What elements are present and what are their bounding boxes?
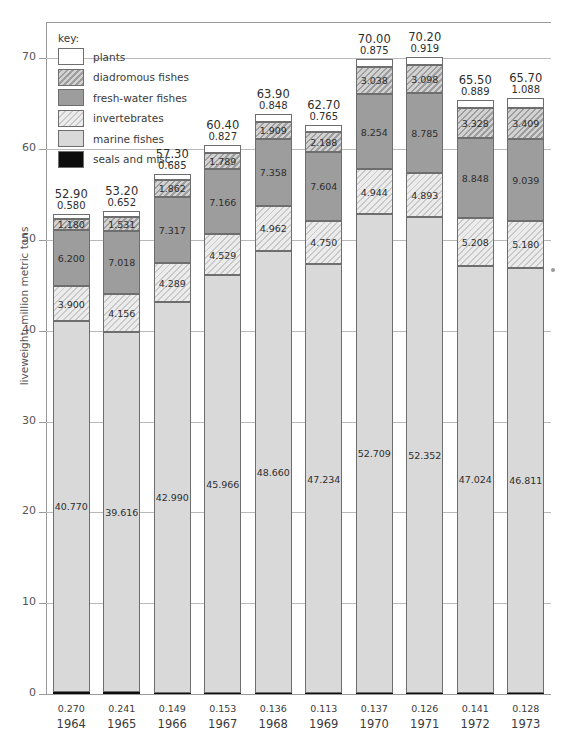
- y-tick-0: 0: [0, 694, 46, 695]
- segment-plants[interactable]: [507, 98, 544, 108]
- x-label-1965: 0.2411965: [95, 702, 148, 732]
- plants-value: 0.765: [297, 111, 350, 123]
- segment-marine[interactable]: 47.024: [457, 266, 494, 693]
- seals-value: 0.270: [45, 702, 98, 716]
- segment-freshwater[interactable]: 7.604: [305, 152, 342, 221]
- x-axis-labels: 0.27019640.24119650.14919660.15319670.13…: [46, 698, 551, 748]
- segment-freshwater[interactable]: 8.254: [356, 94, 393, 169]
- segment-invertebrates[interactable]: 4.893: [406, 173, 443, 217]
- segment-freshwater[interactable]: 7.018: [103, 231, 140, 295]
- segment-diadromous[interactable]: 1.180: [53, 219, 90, 230]
- bar-1970[interactable]: 52.7094.9448.2543.038: [356, 59, 393, 694]
- segment-freshwater[interactable]: 6.200: [53, 230, 90, 286]
- segment-plants[interactable]: [255, 114, 292, 122]
- bar-1969[interactable]: 47.2344.7507.6042.188: [305, 125, 342, 694]
- y-tick-mark: [39, 149, 46, 150]
- plants-value: 0.848: [247, 100, 300, 112]
- segment-plants[interactable]: [103, 211, 140, 217]
- x-label-1964: 0.2701964: [45, 702, 98, 732]
- legend-item-freshwater[interactable]: fresh-water fishes: [58, 88, 238, 107]
- segment-freshwater[interactable]: 9.039: [507, 139, 544, 221]
- segment-marine[interactable]: 45.966: [204, 275, 241, 692]
- segment-invertebrates[interactable]: 3.900: [53, 286, 90, 321]
- legend-swatch-invertebrates: [58, 110, 84, 127]
- segment-seals[interactable]: [53, 692, 90, 694]
- segment-plants[interactable]: [53, 214, 90, 219]
- seals-value: 0.141: [449, 702, 502, 716]
- legend-item-invertebrates[interactable]: invertebrates: [58, 109, 238, 128]
- segment-marine[interactable]: 52.709: [356, 214, 393, 693]
- segment-plants[interactable]: [305, 125, 342, 132]
- segment-plants[interactable]: [356, 59, 393, 67]
- segment-diadromous[interactable]: 3.328: [457, 108, 494, 138]
- seals-value: 0.241: [95, 702, 148, 716]
- segment-diadromous[interactable]: 1.909: [255, 122, 292, 139]
- segment-marine[interactable]: 47.234: [305, 264, 342, 693]
- bar-1972[interactable]: 47.0245.2088.8483.328: [457, 100, 494, 694]
- chart-legend: key: plantsdiadromous fishesfresh-water …: [58, 32, 238, 170]
- segment-diadromous[interactable]: 3.038: [356, 67, 393, 95]
- segment-invertebrates[interactable]: 4.529: [204, 234, 241, 275]
- segment-invertebrates[interactable]: 4.156: [103, 294, 140, 332]
- x-label-1971: 0.1261971: [398, 702, 451, 732]
- segment-plants[interactable]: [406, 57, 443, 65]
- y-tick-label: 70: [22, 50, 36, 63]
- segment-invertebrates[interactable]: 4.750: [305, 221, 342, 264]
- legend-swatch-marine: [58, 130, 84, 147]
- segment-invertebrates[interactable]: 4.962: [255, 206, 292, 251]
- segment-invertebrates[interactable]: 5.208: [457, 218, 494, 265]
- segment-marine[interactable]: 40.770: [53, 321, 90, 691]
- segment-value: 7.166: [205, 196, 240, 207]
- segment-marine[interactable]: 42.990: [154, 302, 191, 692]
- segment-freshwater[interactable]: 7.166: [204, 169, 241, 234]
- segment-freshwater[interactable]: 7.317: [154, 197, 191, 263]
- segment-marine[interactable]: 48.660: [255, 251, 292, 693]
- bar-1967[interactable]: 45.9664.5297.1661.789: [204, 145, 241, 694]
- segment-diadromous[interactable]: 3.098: [406, 65, 443, 93]
- legend-item-diadromous[interactable]: diadromous fishes: [58, 68, 238, 87]
- bar-1964[interactable]: 40.7703.9006.2001.180: [53, 214, 90, 694]
- bar-1971[interactable]: 52.3524.8938.7853.098: [406, 57, 443, 694]
- segment-plants[interactable]: [457, 100, 494, 108]
- segment-invertebrates[interactable]: 4.944: [356, 169, 393, 214]
- segment-freshwater[interactable]: 7.358: [255, 139, 292, 206]
- segment-invertebrates[interactable]: 4.289: [154, 263, 191, 302]
- year-label: 1969: [297, 716, 350, 732]
- segment-freshwater[interactable]: 8.848: [457, 138, 494, 218]
- seals-value: 0.113: [297, 702, 350, 716]
- bar-1973[interactable]: 46.8115.1809.0393.409: [507, 98, 544, 694]
- segment-marine[interactable]: 39.616: [103, 332, 140, 692]
- segment-diadromous[interactable]: 1.531: [103, 217, 140, 231]
- segment-value: 5.208: [458, 237, 493, 248]
- segment-value: 52.352: [407, 450, 442, 461]
- segment-diadromous[interactable]: 1.862: [154, 180, 191, 197]
- x-label-1970: 0.1371970: [348, 702, 401, 732]
- y-tick-mark: [39, 512, 46, 513]
- segment-marine[interactable]: 52.352: [406, 217, 443, 692]
- segment-marine[interactable]: 46.811: [507, 268, 544, 693]
- seals-value: 0.136: [247, 702, 300, 716]
- x-label-1967: 0.1531967: [196, 702, 249, 732]
- bar-1965[interactable]: 39.6164.1567.0181.531: [103, 211, 140, 694]
- legend-item-marine[interactable]: marine fishes: [58, 129, 238, 148]
- seals-value: 0.149: [146, 702, 199, 716]
- legend-item-plants[interactable]: plants: [58, 47, 238, 66]
- year-label: 1967: [196, 716, 249, 732]
- segment-value: 5.180: [508, 239, 543, 250]
- segment-freshwater[interactable]: 8.785: [406, 93, 443, 173]
- bar-total: 70.00: [348, 33, 401, 45]
- legend-swatch-diadromous: [58, 69, 84, 86]
- segment-value: 4.289: [155, 277, 190, 288]
- segment-diadromous[interactable]: 2.188: [305, 132, 342, 152]
- bar-1968[interactable]: 48.6604.9627.3581.909: [255, 114, 292, 694]
- segment-invertebrates[interactable]: 5.180: [507, 221, 544, 268]
- segment-plants[interactable]: [154, 174, 191, 180]
- y-tick-label: 10: [22, 595, 36, 608]
- segment-diadromous[interactable]: 3.409: [507, 108, 544, 139]
- segment-seals[interactable]: [103, 692, 140, 694]
- seals-value: 0.126: [398, 702, 451, 716]
- segment-value: 40.770: [54, 501, 89, 512]
- bar-1966[interactable]: 42.9904.2897.3171.862: [154, 174, 191, 694]
- legend-item-seals[interactable]: seals and misc.: [58, 150, 238, 169]
- segment-value: 47.234: [306, 473, 341, 484]
